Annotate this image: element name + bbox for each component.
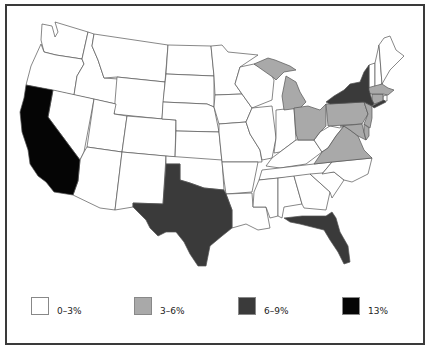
state-maine: [379, 36, 404, 84]
state-north-dakota: [166, 45, 214, 76]
legend-swatch-black: [342, 297, 360, 315]
state-michigan-lower: [282, 76, 306, 110]
legend-item-13: 13%: [342, 295, 388, 315]
legend-label: 6–9%: [264, 307, 289, 316]
legend-swatch-white: [31, 297, 49, 315]
legend-item-3-6: 3–6%: [134, 295, 185, 315]
state-colorado: [122, 116, 176, 157]
legend-label: 0–3%: [57, 307, 82, 316]
legend-label: 13%: [368, 307, 388, 316]
state-pennsylvania: [326, 102, 368, 126]
legend-swatch-dark-gray: [238, 297, 256, 315]
state-arkansas: [222, 162, 258, 194]
legend-label: 3–6%: [160, 307, 185, 316]
legend-swatch-light-gray: [134, 297, 152, 315]
state-new-york: [326, 65, 374, 106]
state-new-mexico: [115, 152, 166, 210]
state-florida: [284, 212, 350, 264]
state-montana: [92, 34, 168, 82]
legend-item-0-3: 0–3%: [31, 295, 82, 315]
state-wyoming: [114, 77, 165, 119]
legend-item-6-9: 6–9%: [238, 295, 289, 315]
